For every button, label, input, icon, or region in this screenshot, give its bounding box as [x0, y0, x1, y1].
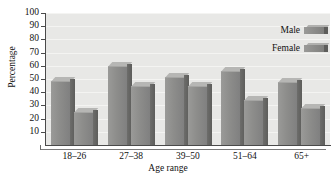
bar-front-face — [301, 108, 320, 145]
y-axis-tick — [41, 53, 46, 54]
y-axis-tick-label: 90 — [30, 21, 40, 30]
y-axis-tick-label: 30 — [30, 100, 40, 109]
gridline — [46, 13, 330, 14]
bar-female-2 — [188, 82, 212, 145]
y-axis-tick — [41, 26, 46, 27]
legend-item-male: Male — [216, 22, 328, 37]
legend-label-male: Male — [280, 25, 300, 35]
y-axis-tick — [41, 79, 46, 80]
legend-swatch-female-icon — [304, 43, 328, 52]
x-axis-depth-cap — [40, 145, 47, 150]
bar-female-1 — [131, 82, 155, 145]
bar-front-face — [108, 66, 127, 145]
bar-female-4 — [301, 104, 325, 145]
legend-swatch-male-icon — [304, 25, 328, 34]
gridline — [46, 66, 330, 67]
legend: Male Female — [216, 22, 328, 58]
y-axis-tick-label: 80 — [30, 34, 40, 43]
bar-side-face — [263, 98, 268, 145]
y-axis-tick-label: 100 — [25, 8, 39, 17]
legend-item-female: Female — [216, 40, 328, 55]
x-axis-line — [45, 145, 331, 146]
bar-front-face — [131, 86, 150, 145]
bar-front-face — [74, 112, 93, 145]
x-axis-tick-label: 39–50 — [160, 151, 217, 161]
y-axis-title: Percentage — [7, 24, 17, 110]
y-axis-tick — [41, 92, 46, 93]
bar-side-face — [150, 84, 155, 145]
y-axis-tick — [41, 105, 46, 106]
y-axis-tick — [41, 66, 46, 67]
y-axis-tick-label: 10 — [30, 127, 40, 136]
bar-front-face — [51, 81, 70, 145]
bar-male-4 — [278, 78, 302, 145]
y-axis-tick — [41, 13, 46, 14]
x-axis-tick-label: 51–64 — [216, 151, 273, 161]
bar-side-face — [207, 84, 212, 145]
x-axis-tick-label: 27–38 — [103, 151, 160, 161]
x-axis-title: Age range — [0, 163, 336, 173]
bar-female-0 — [74, 108, 98, 145]
bar-male-3 — [221, 67, 245, 145]
bar-female-3 — [244, 96, 268, 145]
y-axis-tick-label: 60 — [30, 61, 40, 70]
bar-front-face — [165, 77, 184, 145]
bar-side-face — [320, 106, 325, 145]
x-axis-tick-label: 18–26 — [46, 151, 103, 161]
bar-chart-figure: 102030405060708090100 18–2627–3839–5051–… — [0, 0, 336, 177]
y-axis-tick — [41, 119, 46, 120]
y-axis-tick-label: 40 — [30, 87, 40, 96]
bar-male-2 — [165, 73, 189, 145]
bar-front-face — [244, 100, 263, 145]
bar-male-0 — [51, 77, 75, 145]
y-axis-tick-label: 50 — [30, 74, 40, 83]
bar-side-face — [93, 110, 98, 145]
x-axis-tick-label: 65+ — [273, 151, 330, 161]
x-axis-depth-line — [40, 149, 326, 150]
bar-front-face — [188, 86, 207, 145]
legend-label-female: Female — [272, 43, 300, 53]
y-axis-tick-label: 20 — [30, 114, 40, 123]
y-axis-tick-label: 70 — [30, 48, 40, 57]
bar-front-face — [221, 71, 240, 145]
bar-male-1 — [108, 62, 132, 145]
y-axis-tick — [41, 132, 46, 133]
y-axis-tick — [41, 39, 46, 40]
bar-front-face — [278, 82, 297, 145]
